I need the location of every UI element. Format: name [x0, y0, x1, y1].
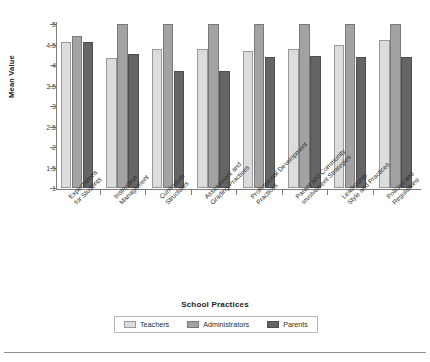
bar-group [152, 24, 185, 188]
y-axis-tick-label: 5 [12, 21, 56, 28]
y-axis-title: Mean Value [7, 32, 16, 122]
legend-item-administrators[interactable]: Administrators [187, 320, 249, 329]
bottom-divider [4, 352, 426, 353]
dark-gray-swatch [267, 321, 279, 328]
bar-group [243, 24, 276, 188]
legend-label: Teachers [140, 320, 169, 329]
bar-administrators [254, 24, 265, 188]
chart-legend: TeachersAdministratorsParents [114, 316, 318, 333]
bar-administrators [390, 24, 401, 188]
bar-administrators [72, 36, 83, 188]
x-axis-category-labels: Expectations for StudentsInstruction Man… [56, 195, 422, 281]
bar-teachers [61, 42, 72, 188]
bar-group [106, 24, 139, 188]
bar-teachers [197, 49, 208, 188]
bar-teachers [106, 58, 117, 188]
y-axis-tick-label: 1.5 [12, 164, 56, 171]
legend-label: Administrators [203, 320, 249, 329]
legend-label: Parents [283, 320, 308, 329]
bar-chart-figure: 11.522.533.544.55 Mean Value Expectation… [0, 0, 430, 362]
bar-group [61, 24, 94, 188]
y-axis-tick-label: 2.5 [12, 123, 56, 130]
x-axis-title: School Practices [0, 300, 430, 309]
medium-gray-swatch [187, 321, 199, 328]
bar-group [197, 24, 230, 188]
bar-parents [174, 71, 185, 188]
y-axis-tick-label: 2 [12, 144, 56, 151]
y-axis-tick-label: 3.5 [12, 82, 56, 89]
bar-teachers [152, 49, 163, 188]
light-gray-swatch [124, 321, 136, 328]
bar-administrators [208, 24, 219, 188]
y-axis-tick-label: 4 [12, 62, 56, 69]
bar-parents [265, 57, 276, 188]
y-axis-tick-label: 3 [12, 103, 56, 110]
legend-item-teachers[interactable]: Teachers [124, 320, 169, 329]
y-axis-tick-label: 1 [12, 185, 56, 192]
y-axis-tick-label: 4.5 [12, 41, 56, 48]
legend-item-parents[interactable]: Parents [267, 320, 308, 329]
bar-parents [128, 54, 139, 188]
bar-parents [356, 57, 367, 188]
bar-parents [83, 42, 94, 188]
bar-administrators [163, 24, 174, 188]
bar-administrators [117, 24, 128, 188]
